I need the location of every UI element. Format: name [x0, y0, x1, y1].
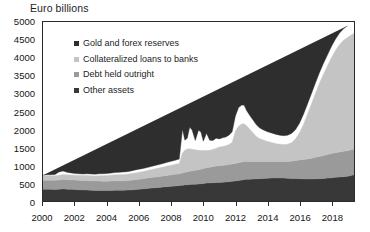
legend-swatch-icon	[74, 57, 79, 62]
y-axis-tick-label: 1500	[14, 142, 35, 153]
y-axis-tick-label: 3000	[14, 88, 35, 99]
legend-swatch-icon	[74, 41, 79, 46]
legend-item-label: Collateralized loans to banks	[83, 55, 198, 64]
stacked-area-chart: Euro billions 05001000150020002500300035…	[0, 0, 370, 232]
y-axis-tick-label: 3500	[14, 70, 35, 81]
y-axis-tick-labels: 0500100015002000250030003500400045005000	[0, 21, 40, 202]
legend-item: Gold and forex reserves	[74, 36, 198, 52]
x-axis-tick-label: 2002	[64, 212, 85, 223]
legend-item: Debt held outright	[74, 67, 198, 83]
y-axis-tick-label: 2000	[14, 124, 35, 135]
x-axis-tick-label: 2012	[225, 212, 246, 223]
x-axis-tick-label: 2006	[128, 212, 149, 223]
y-axis-tick-label: 5000	[14, 16, 35, 27]
legend-item-label: Debt held outright	[83, 70, 154, 79]
y-axis-tick-label: 4500	[14, 34, 35, 45]
legend-swatch-icon	[74, 88, 79, 93]
y-axis-tick-label: 4000	[14, 52, 35, 63]
legend-item-label: Other assets	[83, 86, 134, 95]
x-axis-tick-label: 2008	[160, 212, 181, 223]
y-axis-tick-label: 500	[19, 178, 35, 189]
x-axis-tick-label: 2016	[290, 212, 311, 223]
legend-item: Other assets	[74, 83, 198, 99]
legend-item-label: Gold and forex reserves	[83, 39, 179, 48]
x-axis-tick-label: 2010	[193, 212, 214, 223]
x-axis-tick-label: 2018	[322, 212, 343, 223]
legend-swatch-icon	[74, 72, 79, 77]
x-axis-tick-labels: 2000200220042006200820102012201420162018	[42, 203, 355, 229]
y-axis-tick-label: 1000	[14, 160, 35, 171]
x-axis-tick-label: 2004	[96, 212, 117, 223]
chart-legend: Gold and forex reservesCollateralized lo…	[74, 36, 198, 98]
chart-axis-title: Euro billions	[30, 2, 89, 14]
x-axis-tick-label: 2014	[257, 212, 278, 223]
legend-item: Collateralized loans to banks	[74, 52, 198, 68]
x-axis-tick-label: 2000	[31, 212, 52, 223]
y-axis-tick-label: 2500	[14, 106, 35, 117]
y-axis-tick-label: 0	[30, 197, 35, 208]
